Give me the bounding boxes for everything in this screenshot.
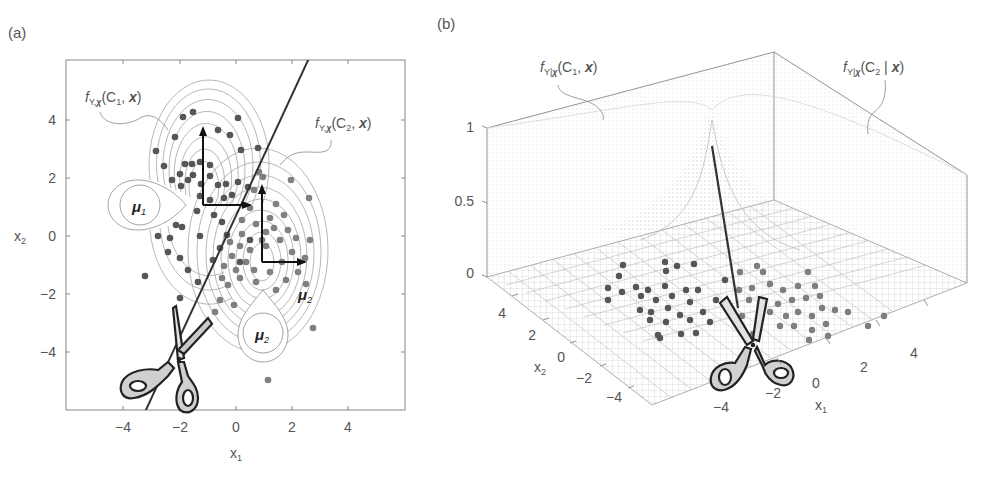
scissors-icon — [121, 306, 212, 412]
x1tick-0: 0 — [812, 375, 820, 391]
x1tick-neg4: −4 — [713, 399, 729, 415]
leader-c2 — [280, 140, 331, 165]
annotation-f-c1-joint: fY,χ(C1, x) — [85, 89, 141, 107]
y-tick-labels: 4 2 0 −2 −4 — [40, 112, 56, 360]
z-ticks — [482, 126, 487, 277]
panel-a: (a) 4 2 0 −2 −4 −4 −2 0 — [8, 24, 405, 463]
annotation-f-c2-joint: fY,χ(C2, x) — [315, 115, 371, 133]
plot-a-frame — [66, 60, 405, 410]
panel-a-tag: (a) — [8, 24, 26, 41]
ytick-0: 0 — [48, 228, 56, 244]
ytick-4: 4 — [48, 112, 56, 128]
xtick-0: 0 — [232, 419, 240, 435]
xtick-2: 2 — [288, 419, 296, 435]
ztick-0-5: 0.5 — [455, 193, 475, 209]
annotation-f-c1-posterior: fY|χ(C1, x) — [540, 59, 597, 77]
x1-axis-label: x1 — [815, 397, 827, 415]
x2tick-neg2: −2 — [576, 370, 592, 386]
decision-boundary-a — [145, 56, 310, 412]
xtick-neg2: −2 — [172, 419, 188, 435]
ztick-0: 0 — [466, 265, 474, 281]
x2-axis-label: x2 — [534, 359, 546, 377]
ztick-1: 1 — [466, 119, 474, 135]
y-axis-label: x2 — [14, 228, 26, 246]
x2tick-0: 0 — [557, 349, 565, 365]
x2tick-neg4: −4 — [606, 389, 622, 405]
ytick-2: 2 — [48, 170, 56, 186]
x1tick-2: 2 — [860, 359, 868, 375]
x1tick-4: 4 — [910, 345, 918, 361]
x1tick-neg2: −2 — [765, 385, 781, 401]
x2tick-4: 4 — [498, 305, 506, 321]
xtick-neg4: −4 — [115, 419, 131, 435]
ytick-neg2: −2 — [40, 286, 56, 302]
annotation-f-c2-posterior: fY|χ(C2 | x) — [843, 59, 904, 77]
x-tick-labels: −4 −2 0 2 4 — [115, 419, 352, 435]
xtick-4: 4 — [344, 419, 352, 435]
x-axis-label: x1 — [230, 445, 242, 463]
panel-b-tag: (b) — [437, 15, 455, 32]
x2tick-2: 2 — [528, 327, 536, 343]
panel-b: (b) — [437, 15, 967, 415]
mu2-axis-label: μ2 — [297, 286, 312, 305]
ytick-neg4: −4 — [40, 344, 56, 360]
